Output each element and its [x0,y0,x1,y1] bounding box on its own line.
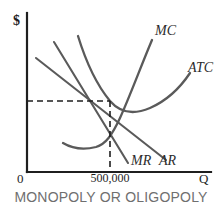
mc-curve [63,40,152,149]
y-axis-label: $ [13,14,20,28]
ar-curve-label: AR [159,154,176,168]
figure-caption: MONOPOLY OR OLIGOPOLY [0,190,222,204]
x-tick-label-500000: 500,000 [78,172,142,184]
origin-label: 0 [17,172,24,185]
mc-curve-label: MC [155,24,176,38]
atc-curve [78,36,190,112]
economics-cost-curve-figure: $ 0 Q 500,000 MC ATC MR AR MONOPOLY OR O… [0,0,222,216]
mr-curve-label: MR [131,154,151,168]
atc-curve-label: ATC [188,61,213,75]
x-axis-label: Q [199,172,208,185]
